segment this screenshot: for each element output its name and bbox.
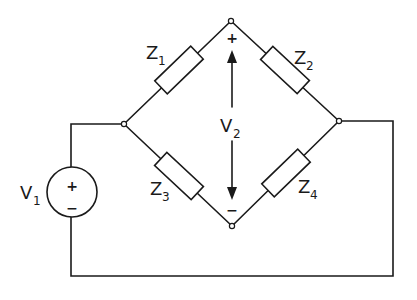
v2-arrow-head-up-icon bbox=[227, 50, 237, 63]
node-bottom bbox=[229, 223, 234, 228]
output-minus-sign: − bbox=[226, 202, 238, 218]
svg-text:3: 3 bbox=[162, 190, 170, 204]
node-top bbox=[228, 18, 233, 23]
svg-text:Z: Z bbox=[294, 47, 306, 68]
svg-text:1: 1 bbox=[158, 54, 166, 68]
svg-text:V: V bbox=[220, 115, 233, 136]
source-plus-sign: + bbox=[66, 178, 78, 194]
svg-text:4: 4 bbox=[310, 188, 318, 202]
svg-text:Z: Z bbox=[298, 176, 310, 197]
z3-label: Z 3 bbox=[150, 178, 170, 204]
z1-label: Z 1 bbox=[146, 42, 166, 68]
svg-text:Z: Z bbox=[146, 42, 158, 63]
v2-arrow-head-down-icon bbox=[227, 187, 237, 200]
source-label: V 1 bbox=[20, 182, 41, 208]
bridge-circuit-diagram: + − V 1 + − V 2 Z 1 Z 2 Z 3 Z 4 bbox=[0, 0, 417, 300]
z4-label: Z 4 bbox=[298, 176, 318, 202]
output-plus-sign: + bbox=[226, 30, 238, 46]
node-right bbox=[336, 118, 341, 123]
svg-text:2: 2 bbox=[306, 59, 314, 73]
node-left bbox=[121, 121, 126, 126]
svg-text:V: V bbox=[20, 182, 33, 203]
svg-text:Z: Z bbox=[150, 178, 162, 199]
svg-text:2: 2 bbox=[233, 127, 241, 141]
source-minus-sign: − bbox=[66, 200, 78, 216]
svg-text:1: 1 bbox=[33, 194, 41, 208]
output-label: V 2 bbox=[220, 115, 241, 141]
wire-source-top bbox=[71, 124, 124, 167]
